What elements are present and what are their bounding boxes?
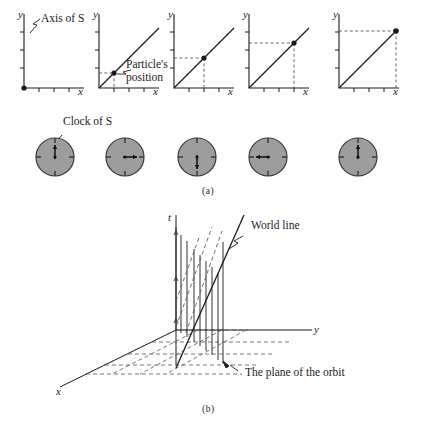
caption-b: (b) [202, 404, 215, 414]
orbit-plane-leader [223, 361, 238, 371]
particle-dot-4 [291, 40, 296, 45]
world-line-label: World line [251, 219, 300, 231]
particles-position-line-2: position [126, 71, 168, 84]
panel-b-y-axis-label: y [314, 323, 319, 335]
panel-b-t-axis-label: t [168, 211, 171, 223]
plot-5 [335, 14, 399, 92]
orbit-plane-label: The plane of the orbit [245, 366, 345, 378]
plot-1-y-axis-label: y [18, 8, 23, 20]
plot-4 [245, 14, 309, 92]
plot-5-x-axis-label: x [393, 85, 398, 97]
particles-position-line-1: Particle's [126, 58, 168, 71]
axis-of-s-label: Axis of S [41, 12, 84, 24]
plot-3 [170, 14, 234, 92]
panel-b-x-axis-label: x [56, 385, 61, 397]
trajectory-line-5 [339, 31, 396, 88]
particles-position-label: Particle's position [126, 58, 168, 83]
plot-4-y-axis-label: y [243, 8, 248, 20]
plot-1-x-axis-label: x [78, 85, 83, 97]
axis-of-s-text: Axis of S [41, 12, 84, 24]
world-line-text: World line [251, 219, 300, 231]
particle-dot-3 [201, 55, 206, 60]
clock-2 [106, 138, 144, 176]
clock-1 [36, 138, 74, 176]
plot-5-y-axis-label: y [333, 8, 338, 20]
plot-3-y-axis-label: y [168, 8, 173, 20]
panel-b-spacetime [0, 205, 430, 410]
clock-of-s-text: Clock of S [63, 115, 112, 127]
plot-4-x-axis-label: x [303, 85, 308, 97]
figure-spacetime: y x y x y x y x y x Axis of S Particle's… [0, 0, 430, 423]
plot-2-y-axis-label: y [93, 8, 98, 20]
clock-5 [339, 138, 377, 176]
clock-4 [249, 138, 287, 176]
world-sheet-lines [176, 227, 223, 364]
plot-2-x-axis-label: x [153, 85, 158, 97]
particle-dot-5 [393, 28, 399, 34]
trajectory-line-4 [249, 28, 309, 88]
axis-of-s-leader [30, 19, 40, 33]
caption-a: (a) [202, 186, 214, 196]
particle-dot-1 [21, 85, 26, 90]
clock-of-s-label: Clock of S [63, 115, 112, 127]
plot-3-x-axis-label: x [228, 85, 233, 97]
particle-dot-2 [111, 70, 116, 75]
clock-3 [178, 138, 216, 176]
orbit-plane-text: The plane of the orbit [245, 366, 345, 378]
plot-1 [20, 14, 84, 92]
world-line [176, 215, 244, 368]
